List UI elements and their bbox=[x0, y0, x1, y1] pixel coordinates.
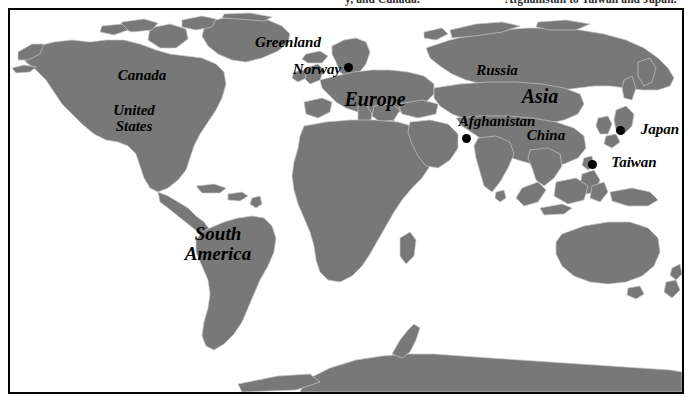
map-marker-norway bbox=[344, 63, 353, 72]
landmass-antarctic-peninsula bbox=[392, 324, 420, 358]
landmass-tasmania bbox=[627, 286, 644, 299]
landmass-cuba bbox=[196, 184, 226, 193]
landmass-hispaniola bbox=[228, 192, 248, 201]
landmass-java bbox=[540, 204, 572, 215]
landmass-new-zealand-n bbox=[670, 264, 682, 280]
landmass-sri-lanka bbox=[495, 190, 506, 202]
map-marker-taiwan bbox=[588, 160, 597, 169]
landmass-south-america bbox=[196, 216, 276, 350]
landmass-lesser-antilles bbox=[250, 196, 262, 208]
landmass-turkey bbox=[398, 100, 438, 118]
landmass-madagascar bbox=[400, 232, 416, 264]
landmass-iberia bbox=[304, 98, 332, 118]
landmass-iceland bbox=[302, 51, 328, 63]
landmass-indochina bbox=[528, 148, 562, 186]
world-map-figure: y, and Canada. Afghanistan to Taiwan and… bbox=[0, 0, 692, 412]
landmass-new-guinea bbox=[610, 188, 658, 206]
landmass-ireland bbox=[292, 70, 306, 82]
landmass-korea bbox=[596, 116, 612, 134]
landmass-arctic-isles-2 bbox=[100, 24, 128, 35]
landmass-sumatra bbox=[516, 182, 546, 206]
landmass-balkans bbox=[372, 104, 400, 122]
caption-fragment-right: Afghanistan to Taiwan and Japan. bbox=[505, 0, 677, 5]
landmass-india bbox=[474, 136, 514, 192]
map-border-frame: GreenlandCanadaUnited StatesNorwayEurope… bbox=[8, 8, 684, 394]
landmass-new-zealand-s bbox=[664, 280, 680, 298]
landmass-antarctica bbox=[300, 354, 682, 392]
landmass-russia-siberia bbox=[426, 28, 674, 92]
landmass-siberia-north-2 bbox=[536, 20, 590, 30]
map-marker-afghanistan bbox=[462, 134, 471, 143]
landmass-north-america bbox=[20, 40, 226, 192]
landmass-greenland bbox=[202, 17, 290, 62]
landmass-japan-south bbox=[604, 134, 620, 148]
caption-fragment-left: y, and Canada. bbox=[345, 0, 420, 5]
landmass-aleutians bbox=[12, 65, 36, 73]
landmass-china-india bbox=[456, 116, 586, 166]
landmass-central-america bbox=[158, 192, 210, 236]
landmass-australia bbox=[556, 222, 660, 284]
map-marker-japan bbox=[616, 126, 625, 135]
landmass-novaya-zemlya bbox=[424, 28, 448, 40]
